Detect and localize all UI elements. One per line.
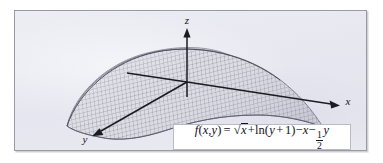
formula-fraction-half: 12 [316,130,323,151]
formula-close-paren: ) [217,123,221,137]
formula-frac-var: y [324,123,330,137]
formula-minus-2: − [308,123,315,137]
fraction-denominator: 2 [316,140,323,151]
formula-radical: √x [233,123,248,138]
fraction-numerator: 1 [316,130,323,140]
z-axis-label: z [184,14,190,26]
formula-equals: = [223,123,230,137]
formula-expression: f(x,y)=√x+ln(y+1)−x−12y [195,123,329,151]
y-axis-label: y [82,133,88,145]
formula-box: f(x,y)=√x+ln(y+1)−x−12y [173,124,351,150]
radical-sign: √ [234,123,241,137]
x-axis-label: x [345,95,351,107]
radical-body: x [241,123,248,137]
formula-ln-plus: + [276,123,283,137]
formula-ln: ln [255,123,265,137]
formula-ln-y: y [269,123,275,137]
figure-root: z x y f(x,y)=√x+ln(y+1)−x− [0,0,383,163]
formula-minus-1: − [296,123,303,137]
formula-plus: + [248,123,255,137]
figure-frame: z x y f(x,y)=√x+ln(y+1)−x− [14,10,367,151]
